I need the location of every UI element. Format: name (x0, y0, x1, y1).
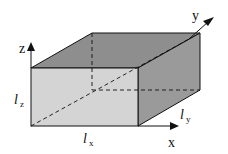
ly-label: l y (180, 107, 191, 124)
z-axis-arrow-icon (27, 42, 35, 51)
x-axis-label: x (168, 135, 175, 150)
lx-label: l x (83, 131, 94, 148)
svg-text:z: z (20, 99, 24, 109)
svg-text:y: y (186, 114, 191, 124)
svg-text:x: x (89, 138, 94, 148)
svg-text:l: l (83, 131, 87, 146)
front-face (31, 68, 138, 126)
z-axis-label: z (19, 41, 25, 56)
lz-label: l z (14, 92, 24, 109)
x-axis-arrow-icon (170, 122, 179, 130)
svg-text:l: l (14, 92, 18, 107)
svg-text:l: l (180, 107, 184, 122)
y-axis-label: y (192, 8, 199, 23)
box-diagram: z y x l z l x l y (0, 0, 228, 154)
